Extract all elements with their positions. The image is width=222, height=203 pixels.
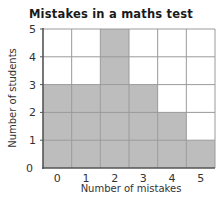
y-tick-label: 4 [29, 51, 36, 64]
x-axis-label: Number of mistakes [81, 183, 182, 194]
bar-2 [100, 29, 129, 168]
bar-5 [186, 140, 215, 168]
bar-3 [129, 85, 158, 168]
y-tick-label: 5 [29, 23, 36, 36]
y-tick-label: 2 [29, 106, 36, 119]
y-tick-label: 0 [26, 162, 33, 175]
y-tick-label: 3 [29, 79, 36, 92]
bar-1 [72, 85, 101, 168]
y-tick-labels: 012345 [26, 23, 43, 175]
bar-chart: 012345 012345 Number of students Number … [0, 0, 222, 203]
bar-0 [43, 85, 72, 168]
x-tick-label: 5 [197, 172, 204, 185]
x-tick-label: 0 [54, 172, 61, 185]
y-tick-label: 1 [29, 134, 36, 147]
y-axis-label: Number of students [7, 48, 18, 148]
